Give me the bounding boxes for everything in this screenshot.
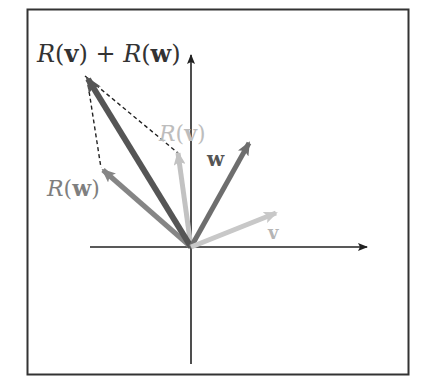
vector-sum-arrow <box>88 79 191 247</box>
label-w: w <box>206 147 225 171</box>
vector-Rw-arrow <box>103 170 191 247</box>
label-Rw: R(w) <box>46 175 100 201</box>
rotation-linearity-diagram: R(v) + R(w) R(v) R(w) w v <box>0 0 423 390</box>
vector-v-arrow <box>191 213 276 247</box>
label-Rv: R(v) <box>158 120 206 146</box>
label-v: v <box>267 222 279 243</box>
label-sum: R(v) + R(w) <box>36 39 181 68</box>
